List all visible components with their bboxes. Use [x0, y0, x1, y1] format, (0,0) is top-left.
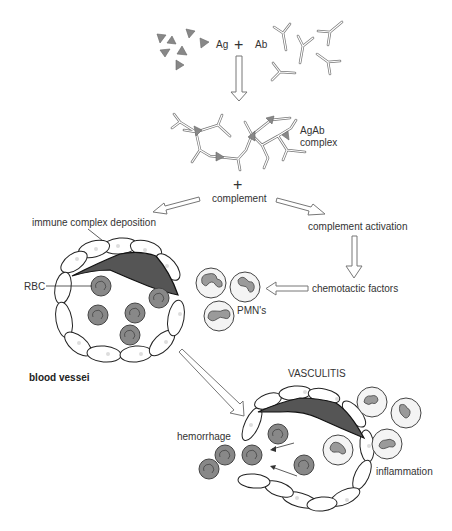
vasculitis-title: VASCULITIS: [288, 368, 346, 379]
migration-arrow-2: [272, 467, 297, 476]
arrow-down-to-complex: [231, 56, 247, 101]
rbc-label: RBC: [24, 281, 45, 292]
vasculitis-diagram: Ag + Ab AgAb: [0, 0, 452, 531]
agab-label-line2: complex: [300, 137, 337, 148]
complement-activation-label: complement activation: [308, 221, 408, 232]
inflammation-label: inflammation: [376, 466, 433, 477]
migration-arrowhead-2: [270, 465, 276, 470]
antibody-label: Ab: [255, 39, 268, 50]
antibody-y-icons: [272, 22, 342, 80]
plus-sign-complement: +: [233, 176, 242, 193]
agab-label-line1: AgAb: [300, 125, 325, 136]
migration-arrowhead-1: [270, 446, 276, 452]
pmn-label: PMN's: [237, 305, 266, 316]
arrow-down-to-chemotactic: [346, 236, 362, 278]
arrow-to-vasculitis: [179, 349, 244, 416]
arrow-to-activation: [276, 198, 325, 215]
blood-vessel-label: blood vessei: [29, 372, 90, 383]
blood-vessel-icon: [52, 237, 187, 364]
chemotactic-factors-label: chemotactic factors: [312, 283, 398, 294]
hemorrhage-label: hemorrhage: [177, 431, 231, 442]
agab-complex-icon: [172, 114, 305, 170]
arrow-to-pmns: [266, 282, 308, 295]
arrow-to-deposition: [153, 197, 200, 214]
antigen-triangles-icon: [157, 29, 209, 70]
plus-sign-top: +: [234, 36, 243, 53]
pmn-cells-icon: [196, 268, 260, 331]
complement-label: complement: [212, 193, 267, 204]
immune-complex-deposition-label: immune complex deposition: [32, 217, 156, 228]
antigen-label: Ag: [216, 39, 228, 50]
